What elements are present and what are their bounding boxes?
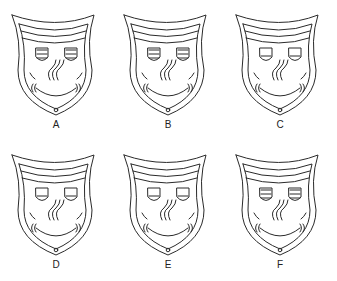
mouth — [36, 228, 76, 236]
right-eye — [177, 188, 189, 201]
option-c[interactable]: C — [224, 0, 336, 140]
option-b[interactable]: B — [112, 0, 224, 140]
mask-options-grid: A — [0, 0, 337, 281]
mouth — [148, 228, 188, 236]
option-label: B — [112, 119, 224, 130]
option-label: E — [112, 259, 224, 270]
option-label: C — [224, 119, 336, 130]
mouth — [36, 88, 76, 96]
mouth — [260, 228, 300, 236]
right-eye — [65, 188, 77, 201]
mouth — [260, 88, 300, 96]
left-eye — [148, 188, 160, 201]
left-eye — [36, 188, 48, 201]
mouth — [148, 88, 188, 96]
option-d[interactable]: D — [0, 140, 112, 280]
option-a[interactable]: A — [0, 0, 112, 140]
option-label: F — [224, 259, 336, 270]
option-e[interactable]: E — [112, 140, 224, 280]
left-eye — [260, 48, 272, 61]
option-f[interactable]: F — [224, 140, 336, 280]
option-label: D — [0, 259, 112, 270]
option-label: A — [0, 119, 112, 130]
right-eye — [289, 48, 301, 61]
